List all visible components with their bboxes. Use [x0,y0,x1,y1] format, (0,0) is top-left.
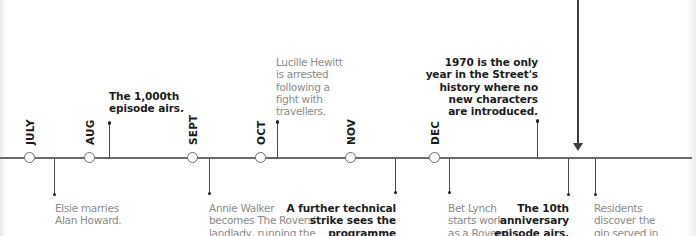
connector-down [568,158,569,195]
event-text-line: gin served in [594,227,658,236]
event-text-line: Residents [594,202,658,214]
event-text-line: The 1,000th [109,90,184,102]
connector-dot-icon [567,193,571,197]
event-text-line: following a [276,81,343,93]
arrow-down-icon [573,143,583,151]
connector-down [449,158,450,193]
event-text-line: The 10th [494,202,569,214]
connector-dot-icon [536,119,540,123]
event-lucille-hewitt: Lucille Hewitt is arrested following a f… [276,56,343,117]
month-label: SEPT [187,115,199,145]
event-10th-anniversary: The 10th anniversary episode airs. [494,202,569,236]
month-label: AUG [84,119,96,145]
connector-up [109,122,110,158]
event-text-line: episode airs. [494,227,569,236]
month-circle-icon [84,152,95,163]
connector-down [54,158,55,195]
event-1000th-episode: The 1,000th episode airs. [109,90,184,115]
event-text-line: are introduced. [426,105,538,117]
connector-down [395,158,396,193]
page-gutter-left [0,0,6,236]
event-text-line: strike sees the [287,214,396,226]
month-label: DEC [429,121,441,145]
connector-dot-icon [276,120,280,124]
event-text-line: programme [287,227,396,236]
month-circle-icon [187,152,198,163]
event-text-line: is arrested [276,68,343,80]
month-label: JULY [24,119,36,145]
connector-down [209,158,210,194]
event-text-line: travellers. [276,105,343,117]
event-text-line: A further technical [287,202,396,214]
connector-up [277,121,278,158]
event-text-line: anniversary [494,214,569,226]
page-gutter-right [686,0,696,236]
event-text-line: Lucille Hewitt [276,56,343,68]
connector-dot-icon [594,193,598,197]
event-elsie-marries: Elsie marries Alan Howard. [55,202,121,227]
event-residents-gin: Residents discover the gin served in [594,202,658,236]
event-text-line: fight with [276,93,343,105]
connector-down [595,158,596,195]
event-text-line: 1970 is the only [426,56,538,68]
event-text-line: new characters [426,93,538,105]
event-text-line: discover the [594,214,658,226]
event-text-line: year in the Street's [426,68,538,80]
arrow-down-shaft [577,0,579,146]
event-text-line: Alan Howard. [55,214,121,226]
connector-dot-icon [108,121,112,125]
connector-dot-icon [448,191,452,195]
month-label: OCT [255,121,267,145]
event-text-line: history where no [426,81,538,93]
event-technical-strike: A further technical strike sees the prog… [287,202,396,236]
connector-up [537,120,538,158]
connector-dot-icon [53,193,57,197]
month-circle-icon [255,152,266,163]
event-text-line: episode airs. [109,102,184,114]
month-circle-icon [24,152,35,163]
connector-dot-icon [394,191,398,195]
event-text-line: Elsie marries [55,202,121,214]
connector-dot-icon [208,192,212,196]
event-1970-no-new-characters: 1970 is the only year in the Street's hi… [426,56,538,117]
month-circle-icon [429,152,440,163]
month-label: NOV [345,119,357,145]
month-circle-icon [345,152,356,163]
